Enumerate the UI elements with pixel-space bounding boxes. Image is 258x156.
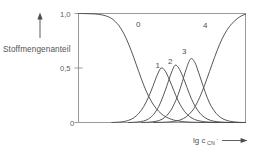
curve-species-4 xyxy=(154,14,246,122)
curve-label-0: 0 xyxy=(136,20,141,29)
y-tick-label-top: 1,0 xyxy=(60,10,71,19)
x-axis-title-superscript: - xyxy=(217,136,219,142)
curve-label-3: 3 xyxy=(182,47,187,56)
curve-label-2: 2 xyxy=(168,57,173,66)
y-axis-arrow-icon xyxy=(37,13,42,39)
curves-group xyxy=(79,14,246,123)
x-axis-title-group: lg c CN - xyxy=(193,136,219,147)
y-tick-label-bottom: 0 xyxy=(70,119,74,128)
curve-label-1: 1 xyxy=(156,61,161,70)
x-axis-arrow-icon xyxy=(222,138,248,143)
curve-species-1 xyxy=(112,68,246,123)
curve-label-4: 4 xyxy=(203,21,208,30)
species-distribution-figure: Stoffmengenanteil 1,0 0,5 0 0 xyxy=(0,0,258,156)
y-tick-label-mid: 0,5 xyxy=(60,64,71,73)
x-axis-title-subscript: CN xyxy=(207,140,215,146)
chart-canvas: Stoffmengenanteil 1,0 0,5 0 0 xyxy=(0,0,258,156)
x-axis-title: lg c xyxy=(193,136,205,145)
curve-labels-group: 0 1 2 3 4 xyxy=(136,20,208,70)
y-axis-title: Stoffmengenanteil xyxy=(3,45,71,54)
